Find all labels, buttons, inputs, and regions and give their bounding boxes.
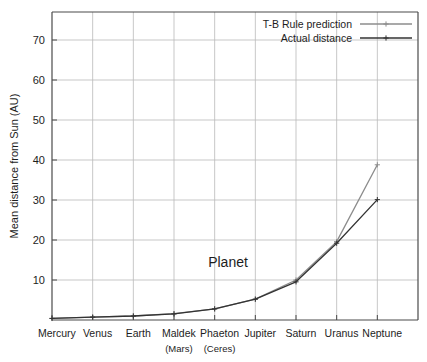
x-axis-title: Planet: [208, 254, 248, 270]
x-tick-label: Jupiter: [244, 327, 276, 339]
chart-container: 10203040506070 Mean distance from Sun (A…: [0, 0, 427, 362]
y-tick-label: 20: [33, 234, 45, 246]
x-tick-label: Neptune: [362, 327, 402, 339]
legend-label-1: T-B Rule prediction: [263, 18, 352, 30]
y-tick-label: 30: [33, 194, 45, 206]
x-tick-label: Uranus: [325, 327, 359, 339]
legend-label-2: Actual distance: [281, 32, 352, 44]
x-tick-label: Venus: [83, 327, 112, 339]
x-tick-label: Mercury: [38, 327, 77, 339]
chart-background: [0, 0, 427, 362]
x-tick-sublabel: (Ceres): [204, 343, 236, 354]
line-chart: 10203040506070 Mean distance from Sun (A…: [0, 0, 427, 362]
x-tick-label: Earth: [126, 327, 151, 339]
y-tick-label: 70: [33, 34, 45, 46]
y-tick-label: 40: [33, 154, 45, 166]
y-tick-label: 50: [33, 114, 45, 126]
y-tick-label: 60: [33, 74, 45, 86]
y-axis-title: Mean distance from Sun (AU): [8, 94, 20, 239]
x-tick-label: Phaeton: [200, 327, 239, 339]
y-tick-label: 10: [33, 274, 45, 286]
x-tick-sublabel: (Mars): [165, 343, 192, 354]
x-tick-label: Maldek: [162, 327, 197, 339]
x-tick-label: Saturn: [285, 327, 316, 339]
